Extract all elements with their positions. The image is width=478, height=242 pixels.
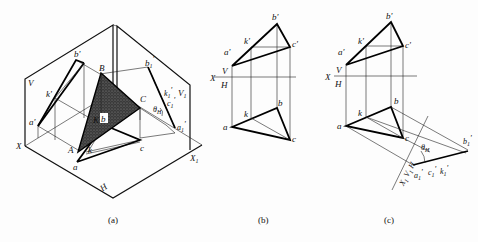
label-a: a [337, 121, 342, 131]
figure-canvas: V b' B k' a' C X A k a K b c b1' k1' c1'… [0, 0, 478, 242]
label-a-prime: a' [338, 47, 346, 57]
label-k-prime: k' [358, 36, 365, 46]
front-view-triangle [232, 24, 290, 66]
label-C: C [140, 94, 147, 104]
label-V: V [28, 78, 35, 88]
label-V: V [336, 65, 343, 75]
label-H: H [97, 181, 109, 194]
label-c: c [405, 133, 409, 143]
label-c-prime: c' [292, 39, 299, 49]
label-a1-prime: a1' [414, 168, 423, 181]
label-k: k [358, 108, 363, 118]
label-B: B [99, 63, 105, 73]
label-b: b [101, 114, 106, 124]
label-theta-h: θH [153, 105, 162, 115]
label-b-prime: b' [74, 49, 82, 59]
label-k1-prime: k1' [440, 164, 449, 177]
label-b1-prime: b1' [463, 134, 472, 147]
label-k-prime: k' [46, 89, 53, 99]
label-a: a [73, 162, 78, 172]
label-b-prime: b' [386, 11, 394, 21]
label-A: A [67, 145, 74, 155]
label-V1: V1 [178, 88, 187, 99]
h-plane-outline [25, 145, 202, 198]
label-theta-h: θH [421, 143, 430, 153]
label-a-prime: a' [224, 47, 232, 57]
label-K: K [92, 115, 100, 125]
label-c-prime: c' [405, 40, 412, 50]
panel-a: V b' B k' a' C X A k a K b c b1' k1' c1'… [15, 25, 202, 225]
label-X: X [324, 72, 331, 82]
front-view-triangle [346, 22, 403, 65]
label-a: a [223, 122, 228, 132]
label-X: X [15, 141, 22, 151]
label-V: V [222, 66, 229, 76]
label-c: c [140, 143, 144, 153]
caption-c: (c) [384, 215, 394, 225]
label-k1-prime: k1' [164, 86, 173, 99]
label-b1-prime: b1' [145, 54, 156, 69]
label-c1-prime: c1' [428, 165, 437, 178]
label-k-prime: k' [244, 36, 251, 46]
label-a-prime: a' [29, 117, 37, 127]
label-X: X [209, 73, 216, 83]
label-b: b [394, 96, 399, 106]
v1-edge-view [148, 67, 175, 128]
triangle-abc-shaded [78, 73, 140, 152]
label-b-prime: b' [272, 12, 280, 22]
panel-c: b' k' a' c' X V H b k a c θH b1' a1' c1'… [324, 11, 472, 225]
caption-a: (a) [108, 215, 118, 225]
label-X1: X1 [189, 153, 199, 164]
panel-b: b' k' a' c' X V H b k a c (b) [209, 12, 299, 225]
label-k: k [244, 109, 249, 119]
label-k: k [88, 145, 93, 155]
edge-view-line [413, 151, 468, 165]
label-H: H [334, 79, 342, 89]
label-H: H [220, 80, 228, 90]
label-a1-prime: a1' [177, 120, 186, 133]
caption-b: (b) [258, 215, 269, 225]
label-c: c [292, 134, 296, 144]
label-b: b [278, 98, 283, 108]
